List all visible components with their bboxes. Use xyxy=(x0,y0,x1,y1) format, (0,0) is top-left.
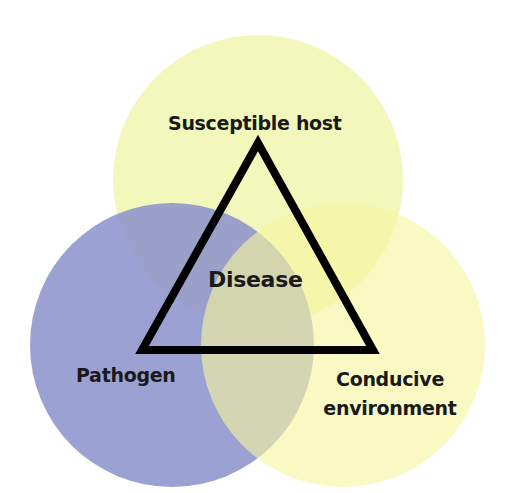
environment-circle xyxy=(201,203,485,487)
pathogen-label: Pathogen xyxy=(76,364,176,386)
environment-label-line1: Conducive xyxy=(320,365,460,394)
environment-label-line2: environment xyxy=(320,394,460,423)
conducive-environment-label: Conducive environment xyxy=(320,365,460,423)
disease-label: Disease xyxy=(208,267,303,292)
susceptible-host-label: Susceptible host xyxy=(168,112,342,134)
